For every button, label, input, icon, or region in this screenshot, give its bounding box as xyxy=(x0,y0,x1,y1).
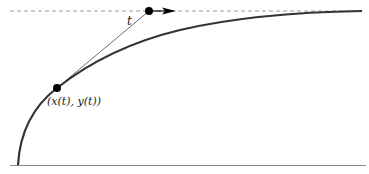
segment-label: t xyxy=(127,14,132,28)
leader-point xyxy=(145,7,153,15)
point-label: (x(t), y(t)) xyxy=(47,95,101,108)
tractrix-diagram: t (x(t), y(t)) xyxy=(0,0,369,174)
curve-point xyxy=(53,84,61,92)
tangent-segment xyxy=(57,11,149,88)
pursuit-curve xyxy=(18,11,362,165)
